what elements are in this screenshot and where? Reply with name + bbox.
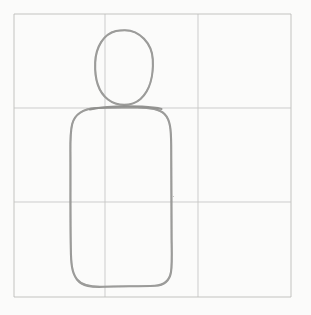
paper-background	[0, 0, 311, 315]
sketch-drawing-surface	[0, 0, 311, 315]
sketch-canvas: A light pencil drawing of a simple human…	[0, 0, 311, 315]
